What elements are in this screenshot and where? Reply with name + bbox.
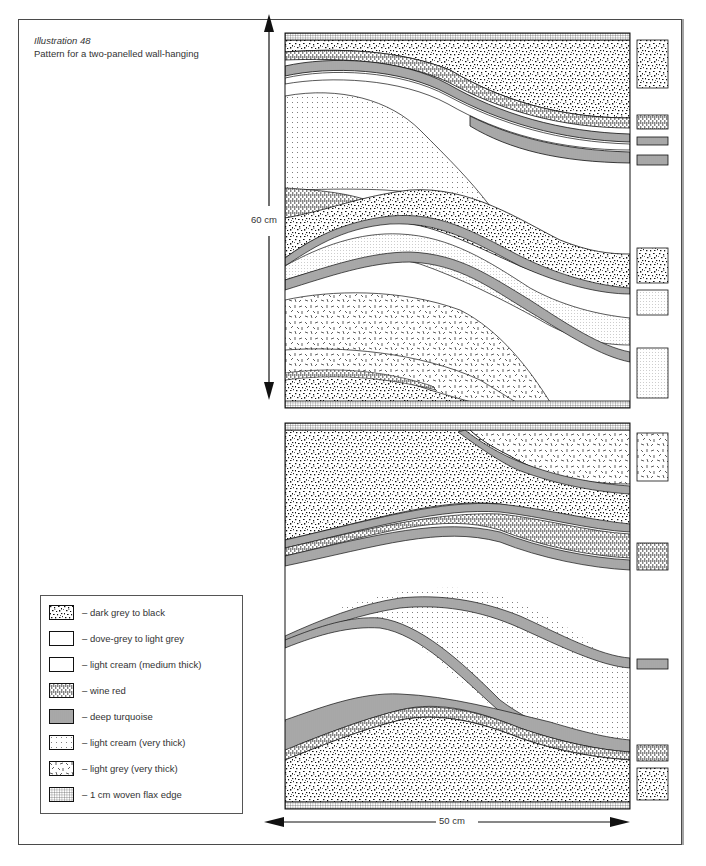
bottom-panel — [285, 423, 630, 809]
top-panel — [285, 33, 630, 408]
height-dimension-arrow — [264, 14, 274, 400]
dashes-swatch-icon — [49, 761, 74, 776]
bottom-side-swatches — [637, 433, 668, 800]
legend-item-deep-turquoise: – deep turquoise — [49, 708, 153, 724]
legend-label: – light cream (medium thick) — [82, 659, 201, 670]
brick-swatch-icon — [49, 683, 74, 698]
legend-label: – dark grey to black — [82, 607, 165, 618]
legend-item-dark-grey: – dark grey to black — [49, 604, 165, 620]
legend-label: – wine red — [82, 685, 126, 696]
legend-item-wine-red: – wine red — [49, 682, 126, 698]
legend-label: – dove-grey to light grey — [82, 633, 184, 644]
legend-item-light-cream-thick: – light cream (very thick) — [49, 734, 185, 750]
legend-label: – 1 cm woven flax edge — [82, 789, 182, 800]
vertical-lines-swatch-icon — [49, 709, 74, 724]
grid-swatch-icon — [49, 787, 74, 802]
blank-swatch-icon — [49, 631, 74, 646]
legend: – dark grey to black – dove-grey to ligh… — [40, 595, 243, 814]
legend-label: – deep turquoise — [82, 711, 153, 722]
width-label: 50 cm — [436, 815, 468, 826]
top-side-swatches — [637, 40, 668, 398]
legend-label: – light cream (very thick) — [82, 737, 185, 748]
legend-item-flax-edge: – 1 cm woven flax edge — [49, 786, 182, 802]
legend-item-dove-grey: – dove-grey to light grey — [49, 630, 184, 646]
height-label: 60 cm — [248, 214, 280, 225]
legend-item-light-cream-medium: – light cream (medium thick) — [49, 656, 201, 672]
dark-speckle-swatch-icon — [49, 605, 74, 620]
dots-swatch-icon — [49, 735, 74, 750]
legend-label: – light grey (very thick) — [82, 763, 178, 774]
blank-swatch-icon — [49, 657, 74, 672]
legend-item-light-grey-thick: – light grey (very thick) — [49, 760, 178, 776]
